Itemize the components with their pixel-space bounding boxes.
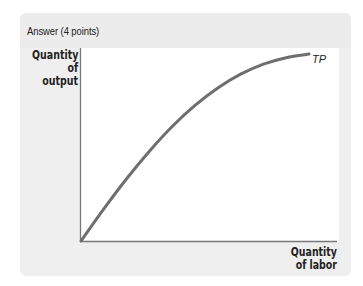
tp-curve: [81, 54, 309, 241]
y-axis-label: Quantity of output: [32, 49, 78, 88]
x-axis-label-line-2: of labor: [287, 259, 337, 272]
y-axis-label-line-2: of output: [32, 62, 78, 88]
tp-chart: [0, 0, 363, 286]
tp-curve-label: TP: [312, 53, 326, 65]
x-axis-label: Quantity of labor: [287, 246, 337, 272]
